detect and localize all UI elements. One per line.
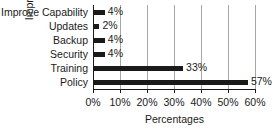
bar-value-label: 4% [108,47,123,60]
bar [94,80,248,85]
gridline [201,5,202,89]
category-label: Improve Capability [1,5,88,19]
x-tick-mark [93,89,94,93]
x-tick-mark [147,89,148,93]
gridline [228,5,229,89]
bar-value-label: 57% [251,75,272,88]
category-label: Policy [60,75,88,89]
bar-value-label: 33% [186,61,207,74]
category-label: Security [50,47,88,61]
x-tick-mark [228,89,229,93]
x-tick-mark [174,89,175,93]
x-tick-label: 40% [190,96,211,109]
gridline [147,5,148,89]
bar [94,24,99,29]
bar [94,10,105,15]
category-label: Training [50,61,88,75]
bar [94,66,183,71]
bar [94,52,105,57]
gridline [174,5,175,89]
x-tick-label: 30% [163,96,184,109]
x-tick-mark [201,89,202,93]
x-tick-mark [255,89,256,93]
x-tick-label: 50% [217,96,238,109]
bar-value-label: 4% [108,33,123,46]
category-label: Updates [49,19,88,33]
x-tick-label: 0% [85,96,100,109]
bar-value-label: 2% [102,19,117,32]
plot-area: 0%10%20%30%40%50%60%4%2%4%4%33%57% [93,5,255,89]
bar [94,38,105,43]
bar-value-label: 4% [108,5,123,18]
x-axis-title: Percentages [93,112,256,126]
x-tick-label: 60% [244,96,265,109]
value-axis-line [93,5,94,89]
bar-chart: Improvements Improve CapabilityUpdatesBa… [0,0,276,136]
category-axis-labels: Improve CapabilityUpdatesBackupSecurityT… [0,5,91,89]
x-tick-label: 20% [136,96,157,109]
x-tick-mark [120,89,121,93]
category-label: Backup [53,33,88,47]
x-tick-label: 10% [109,96,130,109]
